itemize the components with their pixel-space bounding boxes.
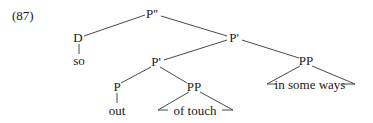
leaf-of-touch: of touch [174,104,217,118]
node-pp-right: PP [299,54,313,68]
leaf-in-some-ways: in some ways [275,78,346,92]
leaf-out: out [109,104,126,118]
leaf-so: so [73,54,85,68]
node-pp-touch: PP [187,80,201,94]
node-p-bar-low: P' [151,55,161,69]
node-d: D [73,31,82,45]
node-p-double-bar: P'' [146,7,158,21]
node-p-bar-top: P' [229,31,239,45]
node-p: P [113,80,120,94]
